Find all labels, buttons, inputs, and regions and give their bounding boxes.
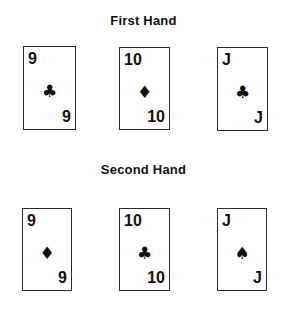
card-rank-bottom: J	[253, 270, 262, 286]
card-rank-top: 9	[28, 51, 37, 67]
card-rank-bottom: 9	[62, 109, 71, 125]
second-hand-card-2: 10 ♣ 10	[119, 208, 170, 291]
clubs-icon: ♣	[120, 245, 169, 262]
diamonds-icon: ♦	[120, 84, 169, 101]
second-hand-card-3: J ♠ J	[217, 208, 267, 291]
card-rank-top: 9	[27, 213, 36, 229]
second-hand-card-1: 9 ♦ 9	[22, 208, 72, 291]
card-rank-bottom: 10	[147, 270, 165, 286]
first-hand-card-3: J ♣ J	[217, 47, 268, 131]
clubs-icon: ♣	[218, 84, 267, 101]
spades-icon: ♠	[218, 245, 266, 262]
clubs-icon: ♣	[24, 83, 75, 100]
card-rank-top: 10	[124, 213, 142, 229]
card-rank-top: 10	[124, 52, 142, 68]
card-rank-top: J	[222, 52, 231, 68]
first-hand-title: First Hand	[0, 14, 287, 28]
card-rank-bottom: 9	[58, 270, 67, 286]
card-rank-bottom: J	[254, 110, 263, 126]
second-hand-title: Second Hand	[0, 163, 287, 177]
first-hand-card-1: 9 ♣ 9	[23, 46, 76, 130]
card-rank-top: J	[222, 213, 231, 229]
diamonds-icon: ♦	[23, 245, 71, 262]
card-rank-bottom: 10	[147, 109, 165, 125]
first-hand-card-2: 10 ♦ 10	[119, 47, 170, 130]
